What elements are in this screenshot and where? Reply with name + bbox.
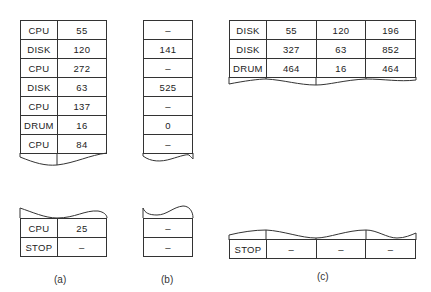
table-row: CPU84 — [21, 135, 107, 154]
value-cell: 0 — [144, 116, 193, 135]
device-cell: CPU — [21, 219, 58, 238]
value-cell: 464 — [366, 59, 416, 78]
table-row: DISK32763852 — [230, 40, 416, 59]
value-cell: – — [144, 135, 193, 154]
value-cell: 141 — [144, 40, 193, 59]
table-row: – — [144, 97, 193, 116]
caption-b: (b) — [161, 274, 173, 285]
table-row: DRUM16 — [21, 116, 107, 135]
device-cell: STOP — [230, 240, 267, 259]
table-row: STOP– — [21, 238, 107, 257]
panel-b-top-table: – 141 – 525 – 0 – — [143, 20, 193, 154]
device-cell: DISK — [230, 40, 267, 59]
value-cell: 464 — [266, 59, 316, 78]
table-row: 141 — [144, 40, 193, 59]
device-cell: CPU — [21, 21, 58, 40]
panel-a-bottom-table: CPU25 STOP– — [20, 218, 107, 257]
time-cell: 120 — [57, 40, 106, 59]
panel-c-top-table: DISK55120196 DISK32763852 DRUM46416464 — [229, 20, 416, 78]
time-cell: 84 — [57, 135, 106, 154]
torn-edge-top-icon — [143, 205, 195, 219]
device-cell: DISK — [230, 21, 267, 40]
value-cell: – — [316, 240, 366, 259]
value-cell: 63 — [316, 40, 366, 59]
table-row: DISK120 — [21, 40, 107, 59]
table-row: STOP––– — [230, 240, 416, 259]
device-cell: DISK — [21, 40, 58, 59]
table-row: DISK63 — [21, 78, 107, 97]
time-cell: – — [57, 238, 106, 257]
table-row: – — [144, 219, 193, 238]
panel-b-bottom-table: – – — [143, 218, 193, 257]
device-cell: CPU — [21, 97, 58, 116]
time-cell: 55 — [57, 21, 106, 40]
value-cell: – — [144, 59, 193, 78]
value-cell: 120 — [316, 21, 366, 40]
table-row: CPU272 — [21, 59, 107, 78]
device-cell: CPU — [21, 59, 58, 78]
table-row: – — [144, 21, 193, 40]
panel-c-bottom-table: STOP––– — [229, 239, 416, 259]
value-cell: 16 — [316, 59, 366, 78]
table-row: – — [144, 59, 193, 78]
value-cell: – — [144, 219, 193, 238]
value-cell: – — [366, 240, 416, 259]
value-cell: 55 — [266, 21, 316, 40]
table-row: 0 — [144, 116, 193, 135]
value-cell: 852 — [366, 40, 416, 59]
device-cell: DISK — [21, 78, 58, 97]
time-cell: 63 — [57, 78, 106, 97]
table-row: – — [144, 135, 193, 154]
table-row: CPU137 — [21, 97, 107, 116]
caption-c: (c) — [317, 271, 329, 282]
time-cell: 25 — [57, 219, 106, 238]
value-cell: 196 — [366, 21, 416, 40]
device-cell: STOP — [21, 238, 58, 257]
value-cell: – — [144, 238, 193, 257]
torn-edge-bottom-icon — [20, 153, 108, 167]
value-cell: 525 — [144, 78, 193, 97]
value-cell: – — [266, 240, 316, 259]
table-row: DISK55120196 — [230, 21, 416, 40]
value-cell: 327 — [266, 40, 316, 59]
table-row: DRUM46416464 — [230, 59, 416, 78]
time-cell: 16 — [57, 116, 106, 135]
device-cell: DRUM — [230, 59, 267, 78]
table-row: 525 — [144, 78, 193, 97]
device-cell: DRUM — [21, 116, 58, 135]
table-row: CPU25 — [21, 219, 107, 238]
table-row: CPU55 — [21, 21, 107, 40]
panel-a-top-table: CPU55 DISK120 CPU272 DISK63 CPU137 DRUM1… — [20, 20, 107, 154]
table-row: – — [144, 238, 193, 257]
value-cell: – — [144, 97, 193, 116]
time-cell: 272 — [57, 59, 106, 78]
caption-a: (a) — [54, 274, 66, 285]
value-cell: – — [144, 21, 193, 40]
torn-edge-bottom-icon — [143, 153, 195, 165]
device-cell: CPU — [21, 135, 58, 154]
torn-edge-bottom-icon — [229, 77, 419, 89]
time-cell: 137 — [57, 97, 106, 116]
